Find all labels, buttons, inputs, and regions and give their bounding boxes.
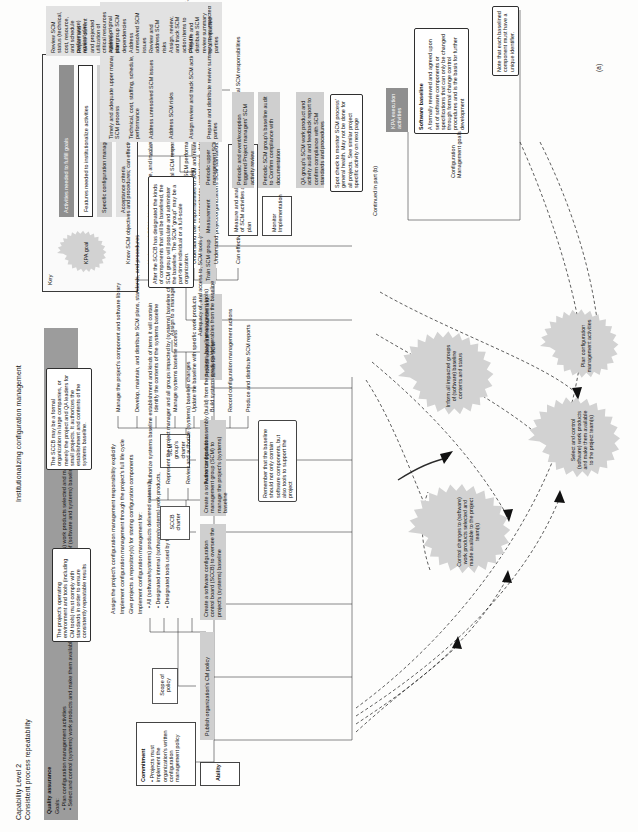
key-title: Key bbox=[47, 275, 53, 286]
goals-label: Goals: bbox=[54, 798, 60, 814]
callout-sccb: The SCCB may be a formal organization in… bbox=[46, 368, 92, 470]
callout-baseline-tools: Remember that the baseline should not on… bbox=[258, 420, 297, 502]
callout-spot-check: Spot check to monitor SCM process' gener… bbox=[330, 94, 363, 192]
publish-cm-policy-box: Publish organization's CM policy bbox=[200, 632, 214, 740]
scope-of-policy-box: Scope of policy bbox=[152, 668, 178, 704]
ability-create-sccb-box: Create a software configuration control … bbox=[200, 524, 226, 620]
monitor-item-2: QA group's SCM work product and activity… bbox=[296, 92, 324, 188]
callout-unique-identifier: Note that each baselined component must … bbox=[492, 6, 519, 76]
measurement-box: Measurement bbox=[200, 180, 216, 236]
pmr-item-4: Review and address SCM risks bbox=[148, 9, 167, 53]
pmr-item-3: Address unresolved SCM issues bbox=[128, 9, 147, 53]
sccb-charter-box: SCCB charter bbox=[160, 506, 190, 540]
callout-operating-environment: The project's operating environment and … bbox=[52, 548, 91, 642]
rotated-figure-canvas: Capability Level 2 Consistent process re… bbox=[0, 0, 638, 832]
pmr-item-2: Address intergroup SCM dependencies bbox=[108, 9, 127, 53]
monitor-item-0: Periodic and event/exception triggered P… bbox=[232, 92, 254, 188]
ability-label: Ability bbox=[215, 764, 221, 781]
ability-label-box: Ability bbox=[200, 762, 240, 786]
kpa-execution-activities-badge: KPA execution activities bbox=[386, 88, 408, 132]
figure-part-label: (a) bbox=[596, 64, 602, 72]
project-mgr-review-list: Review SCM status (technical, cost, reso… bbox=[46, 6, 208, 56]
pmr-item-6: Prepare and distribute SCM review summar… bbox=[188, 9, 219, 53]
commitment-label: Commitment bbox=[140, 749, 146, 782]
cm-goals-label: Configuration Management goals bbox=[450, 114, 463, 178]
capability-level-title: Capability Level 2 Consistent process re… bbox=[14, 650, 32, 820]
key-item-activities: Activities needed to fulfill goals bbox=[59, 65, 74, 217]
monitor-item-1: Periodic SCM group's baseline audit to C… bbox=[258, 92, 280, 188]
key-item-features: Features needed to institutionalize acti… bbox=[78, 65, 93, 217]
commitment-bullet: • Projects must implement the organizati… bbox=[149, 724, 180, 782]
figure-page: Capability Level 2 Consistent process re… bbox=[0, 0, 638, 832]
header-title: Institutionalizing configuration managem… bbox=[16, 262, 22, 502]
scm-activity-0: Manage the project's component and softw… bbox=[115, 172, 121, 412]
diagram-canvas: Capability Level 2 Consistent process re… bbox=[0, 0, 638, 832]
key-kpa-goal-starburst: KPA goal bbox=[57, 225, 115, 281]
commitment-box: Commitment • Projects must implement the… bbox=[136, 722, 196, 786]
continued-note: Continued in part (b) bbox=[372, 136, 378, 216]
callout-scm-group: After the SCCB has designated the kinds … bbox=[148, 176, 194, 288]
quality-assurance-label: Quality assurance bbox=[46, 767, 52, 814]
monitor-implementation-box: Monitor Implementation bbox=[262, 196, 292, 236]
scm-activity-1: Develop, maintain, and distribute SCM pl… bbox=[134, 172, 140, 412]
